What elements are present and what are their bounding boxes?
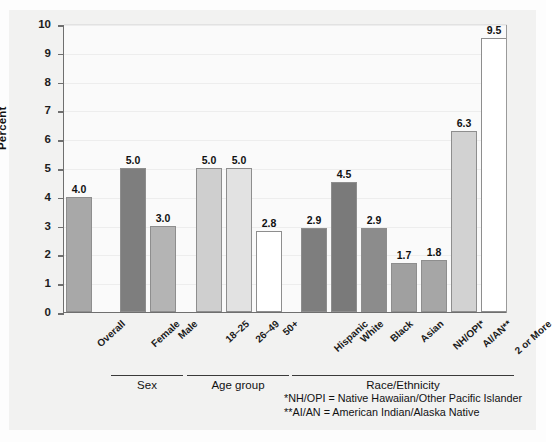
bar-value-label: 2.9 bbox=[354, 215, 394, 226]
bar-value-label: 4.5 bbox=[324, 169, 364, 180]
y-axis-tick-label: 4 bbox=[25, 192, 51, 204]
plot-area: 4.05.03.05.05.02.82.94.52.91.71.86.39.5 bbox=[63, 25, 506, 313]
bar-value-label: 5.0 bbox=[219, 155, 259, 166]
bar bbox=[226, 168, 252, 312]
y-axis-tick bbox=[58, 25, 64, 27]
y-axis-tick bbox=[58, 140, 64, 142]
bar bbox=[331, 182, 357, 312]
bar bbox=[361, 228, 387, 312]
bar-value-label: 4.0 bbox=[59, 184, 99, 195]
y-axis-tick bbox=[58, 284, 64, 286]
y-axis-tick bbox=[58, 111, 64, 113]
gridline bbox=[64, 25, 507, 26]
y-axis-tick-label: 10 bbox=[25, 19, 51, 31]
figure-margin-right bbox=[536, 0, 546, 442]
y-axis-tick-label: 6 bbox=[25, 134, 51, 146]
x-axis-tick-label: AI/AN** bbox=[480, 318, 513, 350]
x-axis-tick-label: Male bbox=[176, 318, 200, 341]
bar bbox=[150, 226, 176, 312]
y-axis-tick-label: 0 bbox=[25, 307, 51, 319]
group-bracket-label: Age group bbox=[187, 379, 289, 391]
bar bbox=[451, 131, 477, 312]
gridline bbox=[64, 83, 507, 84]
group-bracket-line bbox=[111, 375, 183, 376]
y-axis-title: Percent bbox=[0, 106, 8, 150]
footnote-line-1: *NH/OPI = Native Hawaiian/Other Pacific … bbox=[284, 392, 522, 406]
x-axis-tick-label: 50+ bbox=[280, 318, 300, 338]
y-axis-tick-label: 3 bbox=[25, 221, 51, 233]
y-axis-tick bbox=[58, 313, 64, 315]
group-bracket-line bbox=[292, 375, 514, 376]
y-axis-tick bbox=[58, 227, 64, 229]
group-bracket-label: Sex bbox=[111, 379, 183, 391]
gridline bbox=[64, 140, 507, 141]
bar-value-label: 9.5 bbox=[474, 25, 514, 36]
figure-margin-top bbox=[0, 0, 546, 10]
bar bbox=[120, 168, 146, 312]
y-axis-tick-label: 5 bbox=[25, 163, 51, 175]
bar-value-label: 6.3 bbox=[444, 118, 484, 129]
y-axis-tick bbox=[58, 83, 64, 85]
group-bracket-line bbox=[187, 375, 289, 376]
x-axis-tick-label: Asian bbox=[418, 318, 446, 344]
bar bbox=[256, 231, 282, 312]
y-axis-tick-label: 8 bbox=[25, 77, 51, 89]
bar bbox=[391, 263, 417, 312]
bar-value-label: 2.9 bbox=[294, 215, 334, 226]
bar bbox=[196, 168, 222, 312]
group-bracket-label: Race/Ethnicity bbox=[292, 379, 514, 391]
bar-value-label: 3.0 bbox=[143, 213, 183, 224]
bar-value-label: 1.8 bbox=[414, 247, 454, 258]
x-axis-tick-label: Black bbox=[388, 318, 415, 344]
y-axis-tick-label: 9 bbox=[25, 48, 51, 60]
y-axis-tick bbox=[58, 169, 64, 171]
y-axis-tick-label: 2 bbox=[25, 249, 51, 261]
y-axis-tick bbox=[58, 54, 64, 56]
x-axis-tick-label: Overall bbox=[95, 318, 128, 349]
bar bbox=[66, 197, 92, 312]
footnote-block: *NH/OPI = Native Hawaiian/Other Pacific … bbox=[284, 392, 522, 420]
y-axis-tick bbox=[58, 255, 64, 257]
y-axis-tick-label: 7 bbox=[25, 105, 51, 117]
figure-margin-left bbox=[0, 0, 9, 442]
x-axis-tick-label: 2 or More bbox=[513, 318, 553, 356]
bar bbox=[301, 228, 327, 312]
y-axis-tick bbox=[58, 198, 64, 200]
x-axis-tick-label: 26–49 bbox=[253, 318, 281, 345]
bar bbox=[481, 38, 507, 312]
figure-margin-bottom bbox=[0, 430, 546, 442]
x-axis-tick-label: 18–25 bbox=[223, 318, 251, 345]
bar-value-label: 2.8 bbox=[249, 218, 289, 229]
x-axis-tick-label: NH/OPI* bbox=[451, 318, 487, 352]
y-axis-tick-label: 1 bbox=[25, 278, 51, 290]
bar bbox=[421, 260, 447, 312]
gridline bbox=[64, 54, 507, 55]
footnote-line-2: **AI/AN = American Indian/Alaska Native bbox=[284, 406, 522, 420]
bar-value-label: 5.0 bbox=[113, 155, 153, 166]
gridline bbox=[64, 111, 507, 112]
